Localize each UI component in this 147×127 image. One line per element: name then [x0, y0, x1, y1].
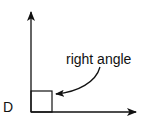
curved-arrow-icon [56, 67, 100, 94]
annotation-label: right angle [66, 51, 131, 67]
right-angle-marker [31, 91, 52, 112]
vertex-label: D [3, 99, 13, 115]
